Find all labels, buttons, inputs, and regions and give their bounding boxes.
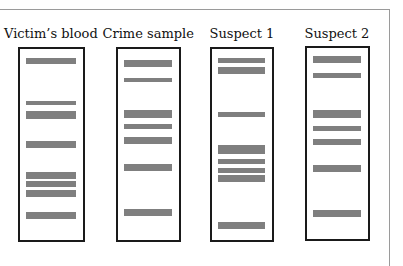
dna-band [124,164,172,171]
dna-band [218,159,265,164]
dna-band [218,175,265,182]
dna-band [124,124,172,129]
dna-band [218,58,265,63]
dna-band [124,60,172,67]
dna-band [218,67,265,74]
dna-band [218,112,265,117]
dna-band [26,172,76,179]
dna-band [313,73,361,78]
dna-band [26,212,76,219]
dna-band [26,111,76,119]
dna-band [313,56,361,63]
dna-band [218,222,265,229]
dna-band [313,210,361,217]
lane-label-suspect-2: Suspect 2 [305,26,370,41]
dna-band [26,190,76,197]
figure-frame-right-border [389,9,390,266]
dna-band [26,141,76,148]
dna-band [313,126,361,131]
dna-band [218,145,265,154]
dna-band [313,139,361,145]
dna-band [26,101,76,105]
dna-band [26,181,76,187]
dna-band [124,110,172,118]
dna-band [218,168,265,173]
lane-label-suspect-1: Suspect 1 [210,26,275,41]
lane-label-victim-s-blood: Victim’s blood [4,26,98,41]
figure-frame-top-border [0,9,389,10]
dna-band [124,137,172,144]
dna-band [124,78,172,82]
dna-band [313,110,361,118]
dna-band [124,209,172,216]
dna-band [26,58,76,64]
dna-band [313,165,361,172]
lane-label-crime-sample: Crime sample [103,26,194,41]
